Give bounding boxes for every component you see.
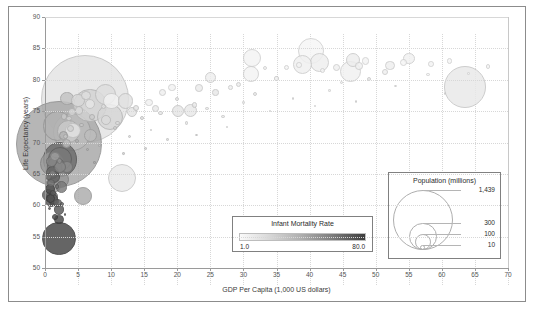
bubble-point [67, 125, 74, 132]
infant-mortality-color-legend: Infant Mortality Rate 1.0 80.0 [232, 216, 373, 252]
bubble-point [63, 134, 68, 139]
bubble-point [192, 102, 198, 108]
gridline-horizontal [45, 17, 508, 19]
x-tick-label: 25 [200, 271, 220, 278]
x-tick-label: 0 [35, 271, 55, 278]
bubble-point [81, 91, 91, 101]
y-tick-label: 50 [22, 264, 40, 271]
bubble-point [444, 66, 486, 108]
gridline-vertical [177, 34, 179, 285]
bubble-point [79, 123, 84, 128]
size-legend-label: 1,439 [463, 186, 495, 193]
bubble-point [64, 213, 67, 216]
bubble-point [175, 97, 179, 101]
plot-border-right [508, 17, 509, 268]
bubble-point [243, 49, 261, 67]
x-tick-label: 40 [300, 271, 320, 278]
bubble-point [50, 190, 56, 196]
y-tick-label: 90 [22, 13, 40, 20]
x-tick-label: 55 [399, 271, 419, 278]
bubble-point [253, 92, 257, 96]
bubble-point [108, 164, 136, 192]
bubble-point [428, 61, 434, 67]
x-tick-label: 30 [233, 271, 253, 278]
size-legend-label: 10 [463, 241, 495, 248]
population-size-legend: Population (millions) 1,43930010010 [388, 172, 501, 259]
bubble-point [426, 73, 429, 76]
y-tick-label: 55 [22, 233, 40, 240]
x-tick-label: 45 [333, 271, 353, 278]
bubble-point [86, 148, 89, 151]
gridline-horizontal [45, 174, 508, 176]
bubble-point [185, 121, 188, 124]
bubble-chart-figure: 0510152025303540455055606570 50556065707… [0, 0, 534, 315]
x-tick-label: 35 [267, 271, 287, 278]
size-legend-leader-line [423, 190, 461, 191]
bubble-point [98, 144, 101, 147]
bubble-point [292, 97, 295, 100]
gridline-horizontal [45, 205, 508, 207]
bubble-point [47, 179, 55, 187]
color-legend-max-label: 80.0 [352, 243, 365, 250]
size-legend-leader-line [423, 245, 461, 246]
x-tick-label: 5 [68, 271, 88, 278]
bubble-point [128, 135, 131, 138]
bubble-point [226, 126, 229, 129]
bubble-point [228, 85, 233, 90]
bubble-point [55, 184, 60, 189]
bubble-point [57, 158, 63, 164]
x-tick-label: 20 [167, 271, 187, 278]
bubble-point [394, 85, 397, 88]
gridline-vertical [376, 34, 378, 285]
bubble-point [447, 58, 452, 63]
gridline-horizontal [45, 48, 508, 50]
bubble-point [122, 152, 125, 155]
gridline-horizontal [45, 111, 508, 113]
gridline-horizontal [45, 143, 508, 145]
color-legend-title: Infant Mortality Rate [233, 220, 372, 227]
bubble-point [382, 69, 389, 76]
bubble-point [150, 129, 153, 132]
bubble-point [355, 100, 358, 103]
bubble-point [236, 82, 241, 87]
bubble-point [168, 84, 175, 91]
bubble-point [205, 107, 208, 110]
bubble-point [93, 161, 96, 164]
x-tick-label: 15 [134, 271, 154, 278]
bubble-point [66, 116, 72, 122]
bubble-point [221, 115, 224, 118]
bubble-point [159, 89, 166, 96]
y-axis-label: Life Expectancy (years) [22, 64, 29, 204]
x-tick-label: 65 [465, 271, 485, 278]
bubble-point [385, 61, 395, 71]
bubble-point [144, 147, 147, 150]
bubble-point [400, 59, 407, 66]
bubble-point [296, 62, 302, 68]
bubble-point [133, 105, 139, 111]
bubble-point [362, 57, 369, 64]
size-legend-leader-line [423, 223, 461, 224]
bubble-point [195, 134, 198, 137]
gridline-vertical [144, 34, 146, 285]
gridline-horizontal [45, 237, 508, 239]
size-legend-leader-line [423, 234, 461, 235]
bubble-point [320, 68, 325, 73]
x-axis-label: GDP Per Capita (1,000 US dollars) [45, 286, 508, 293]
bubble-point [328, 89, 331, 92]
gridline-horizontal [45, 80, 508, 82]
bubble-point [212, 89, 219, 96]
bubble-point [145, 99, 152, 106]
y-tick-mark [42, 268, 45, 269]
size-legend-title: Population (millions) [389, 177, 500, 184]
bubble-point [140, 116, 144, 120]
bubble-point [486, 64, 491, 69]
bubble-point [166, 138, 169, 141]
size-legend-label: 300 [463, 219, 495, 226]
x-tick-label: 10 [101, 271, 121, 278]
bubble-point [74, 187, 92, 205]
bubble-point [195, 84, 203, 92]
bubble-point [242, 101, 245, 104]
bubble-point [263, 66, 267, 70]
bubble-point [101, 115, 111, 125]
bubble-point [314, 105, 317, 108]
